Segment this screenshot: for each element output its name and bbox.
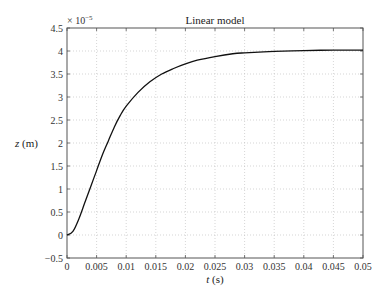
x-tick-label: 0 — [65, 261, 70, 272]
line-chart: 00.0050.010.0150.020.0250.030.0350.040.0… — [0, 0, 386, 301]
y-tick-label: 3.5 — [51, 69, 64, 80]
x-axis-ticks: 00.0050.010.0150.020.0250.030.0350.040.0… — [65, 28, 372, 272]
x-tick-label: 0.01 — [117, 261, 135, 272]
y-tick-label: 4 — [58, 46, 63, 57]
y-tick-label: 0 — [58, 230, 63, 241]
x-axis-label: t (s) — [206, 273, 224, 286]
grid-lines — [67, 28, 363, 258]
y-tick-label: 2 — [58, 138, 63, 149]
y-axis-label: z (m) — [14, 137, 38, 150]
y-tick-label: 3 — [58, 92, 63, 103]
y-tick-label: 2.5 — [51, 115, 64, 126]
y-multiplier-label: × 10−5 — [67, 14, 93, 26]
x-tick-label: 0.015 — [145, 261, 168, 272]
y-tick-label: 1.5 — [51, 161, 64, 172]
x-tick-label: 0.03 — [236, 261, 254, 272]
x-tick-label: 0.05 — [354, 261, 372, 272]
x-tick-label: 0.04 — [295, 261, 313, 272]
y-tick-label: 1 — [58, 184, 63, 195]
y-tick-label: 4.5 — [51, 23, 64, 34]
x-tick-label: 0.02 — [177, 261, 195, 272]
x-tick-label: 0.035 — [263, 261, 286, 272]
x-tick-label: 0.045 — [322, 261, 345, 272]
x-tick-label: 0.005 — [85, 261, 108, 272]
chart-title: Linear model — [186, 14, 245, 26]
y-tick-label: −0.5 — [45, 253, 63, 264]
y-tick-label: 0.5 — [51, 207, 64, 218]
x-tick-label: 0.025 — [204, 261, 227, 272]
